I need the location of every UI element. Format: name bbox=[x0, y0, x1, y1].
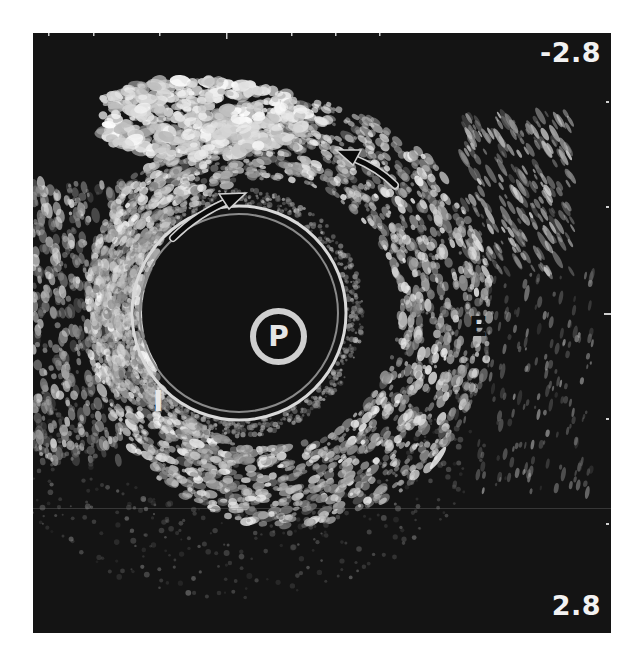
speckle bbox=[142, 248, 146, 252]
speckle bbox=[200, 177, 208, 184]
speckle bbox=[65, 295, 71, 302]
speckle bbox=[481, 222, 486, 228]
speckle bbox=[282, 417, 286, 421]
speckle bbox=[51, 373, 58, 380]
speckle bbox=[585, 353, 590, 360]
speckle bbox=[312, 549, 315, 552]
speckle bbox=[93, 454, 98, 459]
speckle bbox=[571, 305, 577, 316]
speckle bbox=[105, 485, 110, 490]
speckle bbox=[311, 500, 313, 502]
speckle bbox=[108, 570, 112, 574]
speckle bbox=[195, 208, 198, 211]
speckle bbox=[523, 336, 528, 348]
speckle bbox=[235, 434, 240, 439]
speckle bbox=[153, 513, 155, 515]
speckle bbox=[584, 272, 588, 280]
speckle bbox=[286, 509, 290, 513]
speckle bbox=[182, 519, 185, 522]
speckle bbox=[382, 553, 386, 557]
speckle bbox=[428, 479, 433, 484]
speckle bbox=[502, 265, 512, 278]
speckle bbox=[211, 432, 214, 435]
speckle bbox=[589, 361, 592, 365]
speckle bbox=[170, 405, 174, 409]
speckle bbox=[248, 425, 251, 428]
speckle bbox=[176, 216, 180, 220]
speckle bbox=[492, 396, 496, 402]
speckle bbox=[414, 519, 416, 521]
speckle bbox=[130, 360, 133, 363]
speckle bbox=[56, 433, 61, 438]
speckle bbox=[533, 174, 538, 181]
speckle bbox=[192, 591, 196, 595]
speckle bbox=[504, 194, 509, 200]
speckle bbox=[302, 414, 305, 417]
speckle bbox=[121, 492, 124, 495]
speckle bbox=[338, 250, 343, 255]
speckle bbox=[202, 199, 204, 201]
speckle bbox=[415, 479, 418, 482]
speckle bbox=[134, 365, 136, 367]
speckle bbox=[426, 214, 433, 222]
speckle bbox=[128, 337, 131, 340]
speckle bbox=[82, 515, 87, 520]
speckle bbox=[51, 468, 55, 472]
speckle bbox=[297, 543, 300, 546]
speckle bbox=[257, 518, 260, 521]
speckle bbox=[269, 417, 271, 419]
speckle bbox=[270, 524, 274, 528]
speckle bbox=[571, 416, 576, 425]
speckle bbox=[367, 562, 371, 566]
speckle bbox=[144, 233, 150, 239]
speckle bbox=[548, 398, 554, 412]
speckle bbox=[171, 208, 174, 211]
scale-tick bbox=[291, 33, 293, 36]
speckle bbox=[101, 556, 105, 560]
speckle bbox=[313, 538, 315, 540]
speckle bbox=[326, 441, 331, 446]
speckle bbox=[463, 416, 467, 424]
speckle bbox=[298, 524, 304, 530]
speckle bbox=[129, 171, 139, 180]
speckle bbox=[282, 532, 285, 535]
speckle bbox=[290, 413, 293, 416]
scale-tick bbox=[226, 33, 228, 39]
speckle bbox=[268, 427, 272, 431]
speckle bbox=[430, 423, 432, 425]
speckle bbox=[574, 470, 577, 477]
speckle bbox=[439, 518, 442, 521]
speckle bbox=[79, 550, 84, 555]
speckle bbox=[573, 296, 576, 303]
speckle bbox=[345, 289, 349, 293]
speckle bbox=[437, 498, 441, 502]
speckle bbox=[317, 570, 322, 575]
speckle bbox=[539, 485, 542, 490]
speckle bbox=[411, 511, 415, 515]
speckle bbox=[344, 376, 346, 378]
speckle bbox=[179, 521, 184, 526]
speckle bbox=[59, 424, 62, 427]
speckle bbox=[504, 295, 509, 304]
speckle bbox=[173, 566, 176, 569]
speckle bbox=[92, 520, 97, 525]
speckle bbox=[487, 363, 490, 368]
speckle bbox=[419, 527, 422, 530]
speckle bbox=[481, 487, 485, 494]
speckle bbox=[159, 579, 163, 583]
speckle bbox=[145, 391, 149, 395]
speckle bbox=[488, 372, 493, 382]
speckle bbox=[568, 216, 575, 226]
speckle bbox=[272, 196, 275, 199]
speckle bbox=[474, 287, 480, 297]
speckle bbox=[45, 526, 49, 530]
speckle bbox=[405, 471, 410, 476]
speckle bbox=[357, 308, 363, 314]
speckle bbox=[347, 261, 352, 266]
speckle bbox=[50, 482, 54, 486]
speckle bbox=[159, 528, 165, 534]
speckle bbox=[214, 551, 218, 555]
label-internal: I bbox=[153, 385, 163, 418]
speckle bbox=[337, 575, 340, 578]
speckle bbox=[333, 383, 337, 387]
